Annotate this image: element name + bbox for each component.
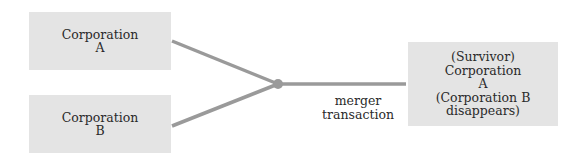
corporation-a-label-line-2: A (62, 41, 139, 55)
survivor-label-line-1: (Survivor) (436, 50, 531, 64)
merger-label-line-2: transaction (318, 108, 398, 122)
survivor-label-line-4: (Corporation B (436, 91, 531, 105)
corporation-b-label-line-1: Corporation (62, 111, 139, 125)
connector-a-to-junction (172, 41, 278, 84)
connector-b-to-junction (172, 84, 278, 126)
survivor-label-line-3: A (436, 77, 531, 91)
merger-label-line-1: merger (318, 94, 398, 108)
corporation-b-label-line-2: B (62, 124, 139, 138)
merger-transaction-label: merger transaction (318, 94, 398, 121)
corporation-a-box: Corporation A (29, 12, 171, 70)
survivor-corporation-box: (Survivor) Corporation A (Corporation B … (408, 42, 558, 126)
corporation-a-label-line-1: Corporation (62, 28, 139, 42)
corporation-b-box: Corporation B (29, 95, 171, 153)
survivor-label-line-2: Corporation (436, 64, 531, 78)
junction-dot (273, 79, 283, 89)
survivor-label-line-5: disappears) (436, 104, 531, 118)
